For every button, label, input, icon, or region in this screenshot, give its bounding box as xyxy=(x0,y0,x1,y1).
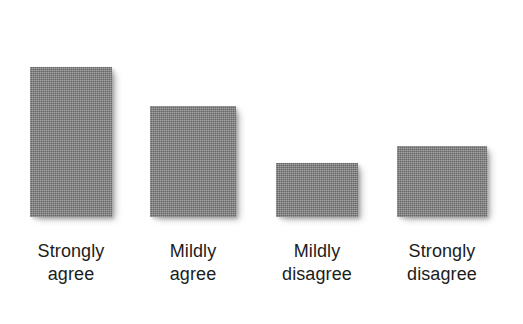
bar-group-strongly-agree[interactable]: 38% Strongly agree xyxy=(30,0,112,324)
category-label-line2: disagree xyxy=(254,263,380,286)
bar-group-mildly-agree[interactable]: 28% Mildly agree xyxy=(150,0,236,324)
category-label-line1: Mildly xyxy=(128,240,258,263)
bar-mildly-disagree[interactable] xyxy=(276,163,358,217)
category-label-strongly-agree: Strongly agree xyxy=(8,240,134,286)
plot-area: 38% Strongly agree 28% Mildly agree 13% … xyxy=(0,0,523,324)
bar-strongly-agree[interactable] xyxy=(30,67,112,217)
bar-strongly-disagree[interactable] xyxy=(397,146,487,217)
category-label-line1: Strongly xyxy=(8,240,134,263)
category-label-mildly-disagree: Mildly disagree xyxy=(254,240,380,286)
bar-chart: 38% Strongly agree 28% Mildly agree 13% … xyxy=(0,0,523,324)
category-label-line2: agree xyxy=(128,263,258,286)
bar-mildly-agree[interactable] xyxy=(150,106,236,217)
category-label-strongly-disagree: Strongly disagree xyxy=(375,240,509,286)
bar-group-strongly-disagree[interactable]: 18% Strongly disagree xyxy=(397,0,487,324)
category-label-line2: agree xyxy=(8,263,134,286)
category-label-line2: disagree xyxy=(375,263,509,286)
bar-group-mildly-disagree[interactable]: 13% Mildly disagree xyxy=(276,0,358,324)
category-label-mildly-agree: Mildly agree xyxy=(128,240,258,286)
category-label-line1: Strongly xyxy=(375,240,509,263)
category-label-line1: Mildly xyxy=(254,240,380,263)
